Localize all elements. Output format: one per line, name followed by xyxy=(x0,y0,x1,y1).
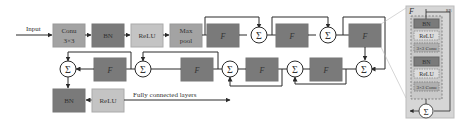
bn-block-2: BN xyxy=(53,89,85,112)
maxpool-block: Max pool xyxy=(170,24,202,47)
svg-text:ReLU: ReLU xyxy=(419,71,434,77)
svg-text:Σ: Σ xyxy=(325,30,331,41)
svg-text:Conu: Conu xyxy=(61,27,77,35)
svg-text:F: F xyxy=(194,66,200,75)
svg-text:ReLU: ReLU xyxy=(99,97,116,105)
svg-text:ReLU: ReLU xyxy=(419,33,434,39)
svg-text:BN: BN xyxy=(64,97,74,105)
sum-node-r2-1: Σ xyxy=(356,61,372,77)
relu-block-2: ReLU xyxy=(92,89,124,112)
resnet-architecture-diagram: Input Conu 3×3 BN ReLU Max pool F Σ F xyxy=(0,0,469,126)
svg-text:Σ: Σ xyxy=(227,64,233,75)
svg-text:F: F xyxy=(323,66,329,75)
residual-block-detail-panel: F RB BN ReLU 3×3 Conu BN ReLU 3×3 Conu Σ xyxy=(406,6,454,118)
svg-text:Σ: Σ xyxy=(292,64,298,75)
sum-node-r2-4: Σ xyxy=(135,61,151,77)
svg-text:3×3: 3×3 xyxy=(64,37,75,45)
svg-text:BN: BN xyxy=(103,32,113,40)
conv3x3-block: Conu 3×3 xyxy=(53,24,85,47)
svg-text:3×3 Conu: 3×3 Conu xyxy=(417,85,437,90)
sum-node-r1-2: Σ xyxy=(320,27,336,43)
residual-block-f4: F xyxy=(310,58,342,81)
svg-text:F: F xyxy=(289,32,295,41)
residual-block-f2: F xyxy=(276,24,308,47)
svg-text:F: F xyxy=(408,7,414,16)
input-arrow: Input xyxy=(16,25,52,35)
sum-node-r2-5: Σ xyxy=(60,61,76,77)
svg-text:pool: pool xyxy=(180,37,193,45)
svg-text:Σ: Σ xyxy=(140,64,146,75)
bn-block-1: BN xyxy=(92,24,124,47)
svg-text:Σ: Σ xyxy=(423,107,428,117)
svg-text:Σ: Σ xyxy=(65,64,71,75)
sum-node-r1-1: Σ xyxy=(251,27,267,43)
svg-text:F: F xyxy=(362,32,368,41)
residual-block-f1: F xyxy=(207,24,239,47)
svg-text:Max: Max xyxy=(180,27,193,35)
residual-block-f7: F xyxy=(94,58,126,81)
residual-block-f5: F xyxy=(246,58,278,81)
relu-block-1: ReLU xyxy=(131,24,163,47)
svg-text:F: F xyxy=(107,66,113,75)
residual-block-f6: F xyxy=(181,58,213,81)
output-arrow: Fully connected layers xyxy=(124,91,230,100)
output-label: Fully connected layers xyxy=(133,91,197,99)
svg-text:F: F xyxy=(220,32,226,41)
sum-node-r2-3: Σ xyxy=(222,61,238,77)
svg-text:F: F xyxy=(259,66,265,75)
residual-block-f3: F xyxy=(349,24,381,47)
svg-text:Σ: Σ xyxy=(361,64,367,75)
svg-text:ReLU: ReLU xyxy=(138,32,155,40)
svg-text:BN: BN xyxy=(422,59,431,65)
input-label: Input xyxy=(26,25,41,33)
sum-node-r2-2: Σ xyxy=(287,61,303,77)
svg-text:BN: BN xyxy=(422,21,431,27)
svg-text:3×3 Conu: 3×3 Conu xyxy=(417,46,437,51)
svg-text:Σ: Σ xyxy=(256,30,262,41)
